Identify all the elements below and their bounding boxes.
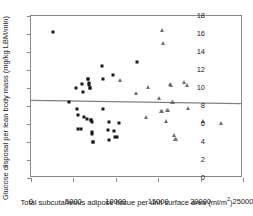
data-point-square [80,82,83,85]
data-point-square [76,114,79,117]
y-axis-tick [27,88,31,89]
x-axis-tick [116,178,117,182]
data-point-square [108,138,111,141]
y-axis-tick-label: 6 [201,120,205,128]
x-axis-tick-label: 15000 [148,198,169,206]
data-point-triangle [219,121,223,125]
y-axis-tick-label: 8 [201,102,205,110]
data-point-square [75,108,78,111]
x-axis-tick-label: 10000 [105,198,126,206]
data-point-triangle [171,100,175,104]
data-point-square [51,31,54,34]
data-point-square [92,141,95,144]
x-axis-tick-label: 5000 [65,198,82,206]
plot-area: 0246810121416180500010000150002000025000 [30,15,242,177]
x-axis-tick-label: 20000 [190,198,211,206]
data-point-square [102,108,105,111]
y-axis-tick [27,52,31,53]
data-point-square [90,121,93,124]
data-point-square [89,87,92,90]
x-axis-tick [158,178,159,182]
data-point-triangle [186,106,190,110]
y-axis-tick-label: 18 [197,12,205,20]
data-point-triangle [146,85,150,89]
data-point-triangle [164,119,168,123]
data-point-triangle [118,78,122,82]
x-axis-tick [243,178,244,182]
data-point-triangle [185,83,189,87]
data-point-triangle [157,96,161,100]
data-point-square [91,133,94,136]
x-axis-tick-label: 0 [29,198,33,206]
y-axis-tick-label: 14 [197,48,205,56]
x-axis-tick [31,178,32,182]
scatter-chart-figure: Glucose disposal per lean body mass (mg/… [0,0,253,216]
data-point-square [112,73,115,76]
data-points-layer [31,16,241,176]
y-axis-title: Glucose disposal per lean body mass (mg/… [0,0,11,216]
y-axis-tick [27,142,31,143]
data-point-square [108,120,111,123]
data-point-square [80,127,83,130]
y-axis-tick [27,106,31,107]
y-axis-tick [27,34,31,35]
x-axis-tick [201,178,202,182]
data-point-square [85,117,88,120]
data-point-square [87,77,90,80]
data-point-square [107,128,110,131]
y-axis-tick-label: 12 [197,66,205,74]
data-point-triangle [160,109,164,113]
y-axis-tick-label: 2 [201,156,205,164]
data-point-square [68,100,71,103]
data-point-triangle [169,83,173,87]
x-axis-tick [73,178,74,182]
data-point-square [74,87,77,90]
y-axis-tick-label: 10 [197,84,205,92]
data-point-square [113,129,116,132]
y-axis-tick-label: 16 [197,30,205,38]
data-point-square [100,64,103,67]
data-point-triangle [166,108,170,112]
data-point-triangle [174,137,178,141]
x-axis-tick-label: 25000 [233,198,253,206]
x-axis-title: Total subcutaneous adipose tissue per un… [0,196,253,207]
data-point-square [135,60,138,63]
y-axis-tick [27,124,31,125]
data-point-square [117,122,120,125]
data-point-square [82,90,85,93]
y-axis-tick [27,70,31,71]
data-point-triangle [160,28,164,32]
data-point-square [101,78,104,81]
y-axis-tick [27,160,31,161]
data-point-triangle [161,41,165,45]
data-point-square [116,135,119,138]
y-axis-tick [27,16,31,17]
data-point-triangle [144,115,148,119]
data-point-triangle [134,91,138,95]
y-axis-tick-label: 4 [201,138,205,146]
